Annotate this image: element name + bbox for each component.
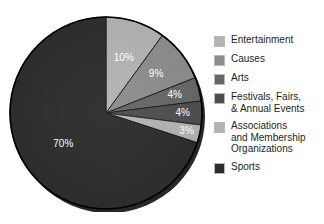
legend-color-swatch <box>214 55 225 66</box>
legend-item[interactable]: Associations and Membership Organization… <box>214 120 322 155</box>
legend-item[interactable]: Sports <box>214 161 322 174</box>
legend-item-label: Entertainment <box>231 34 293 46</box>
pie-chart-graphic: 10%9%4%4%3%70% <box>7 14 205 212</box>
pie-texture-overlay <box>10 17 202 209</box>
pie-slice-label: 3% <box>179 125 194 136</box>
legend-item-label: Arts <box>231 72 249 84</box>
legend-item[interactable]: Causes <box>214 53 322 66</box>
legend-item-label: Sports <box>231 161 260 173</box>
legend-item[interactable]: Entertainment <box>214 34 322 47</box>
legend-color-swatch <box>214 122 225 133</box>
pie-slice-label: 4% <box>176 107 191 118</box>
pie-slice-label: 10% <box>114 52 134 63</box>
legend-item-label: Causes <box>231 53 265 65</box>
pie-slice-label: 9% <box>149 68 164 79</box>
pie-slice-label: 70% <box>53 138 73 149</box>
legend-color-swatch <box>214 93 225 104</box>
pie-slice-label: 4% <box>168 89 183 100</box>
legend-color-swatch <box>214 74 225 85</box>
legend-color-swatch <box>214 36 225 47</box>
legend-item-label: Associations and Membership Organization… <box>231 120 305 155</box>
legend-item[interactable]: Arts <box>214 72 322 85</box>
pie-svg: 10%9%4%4%3%70% <box>7 14 205 212</box>
legend-color-swatch <box>214 163 225 174</box>
legend-item-label: Festivals, Fairs, & Annual Events <box>231 91 304 114</box>
legend-item[interactable]: Festivals, Fairs, & Annual Events <box>214 91 322 114</box>
chart-legend: EntertainmentCausesArtsFestivals, Fairs,… <box>214 34 322 180</box>
pie-chart-figure: 10%9%4%4%3%70% EntertainmentCausesArtsFe… <box>0 0 324 224</box>
